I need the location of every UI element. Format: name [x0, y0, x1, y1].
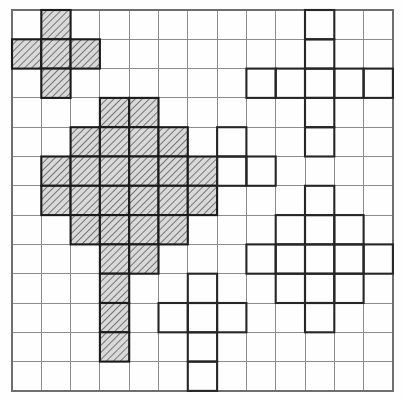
- hatched-vertical-strip: [100, 274, 129, 362]
- outline-diamond-bottom-right: [246, 186, 393, 332]
- grid-cell: [129, 127, 158, 156]
- grid-cell: [276, 215, 305, 244]
- grid-cell: [188, 157, 217, 186]
- grid-cell: [188, 362, 217, 391]
- grid-cell: [12, 39, 41, 68]
- grid-cell: [129, 186, 158, 215]
- grid-cell: [100, 186, 129, 215]
- hatched-large-diamond: [41, 98, 217, 274]
- grid-cell: [159, 303, 188, 332]
- grid-cell: [305, 127, 334, 156]
- grid-cell: [129, 215, 158, 244]
- grid-canvas: [0, 0, 404, 401]
- grid-cell: [217, 157, 246, 186]
- outline-l-tromino: [217, 127, 276, 186]
- grid-cell: [364, 69, 393, 98]
- grid-cell: [246, 244, 275, 273]
- grid-cell: [159, 127, 188, 156]
- grid-cell: [305, 69, 334, 98]
- grid-cell: [217, 303, 246, 332]
- grid-cell: [71, 157, 100, 186]
- grid-cell: [305, 39, 334, 68]
- grid-cell: [305, 274, 334, 303]
- outline-large-cross-top-right: [246, 10, 393, 157]
- grid-cell: [129, 157, 158, 186]
- grid-cell: [246, 69, 275, 98]
- grid-cell: [100, 98, 129, 127]
- grid-cell: [100, 157, 129, 186]
- grid-cell: [41, 69, 70, 98]
- grid-cell: [364, 244, 393, 273]
- grid-cell: [188, 303, 217, 332]
- grid-cell: [246, 157, 275, 186]
- grid-cell: [305, 303, 334, 332]
- grid-cell: [71, 186, 100, 215]
- grid-cell: [71, 39, 100, 68]
- grid-cell: [334, 215, 363, 244]
- grid-cell: [129, 244, 158, 273]
- grid-cell: [305, 10, 334, 39]
- grid-cell: [41, 39, 70, 68]
- grid-cell: [71, 127, 100, 156]
- grid-cell: [100, 274, 129, 303]
- grid-cell: [305, 215, 334, 244]
- grid-cell: [276, 274, 305, 303]
- grid-cell: [159, 157, 188, 186]
- grid-cell: [41, 10, 70, 39]
- grid-cell: [276, 69, 305, 98]
- grid-cell: [100, 303, 129, 332]
- grid-cell: [188, 274, 217, 303]
- grid-cell: [100, 244, 129, 273]
- grid-cell: [41, 186, 70, 215]
- grid-cell: [159, 186, 188, 215]
- grid-cell: [305, 244, 334, 273]
- outline-cross-bottom-middle: [159, 274, 247, 391]
- grid-cell: [100, 332, 129, 361]
- grid-cell: [334, 69, 363, 98]
- puzzle-figure: [0, 0, 404, 401]
- grid-cell: [334, 274, 363, 303]
- grid-cell: [71, 215, 100, 244]
- grid-cell: [100, 215, 129, 244]
- grid-cell: [305, 186, 334, 215]
- shapes-layer: [12, 10, 393, 391]
- grid-cell: [188, 332, 217, 361]
- grid-cell: [129, 98, 158, 127]
- hatched-plus-top-left: [12, 10, 100, 98]
- grid-cell: [334, 244, 363, 273]
- grid-cell: [159, 215, 188, 244]
- grid-cell: [276, 244, 305, 273]
- grid-cell: [305, 98, 334, 127]
- grid-cell: [41, 157, 70, 186]
- grid-cell: [217, 127, 246, 156]
- grid-cell: [100, 127, 129, 156]
- grid-cell: [188, 186, 217, 215]
